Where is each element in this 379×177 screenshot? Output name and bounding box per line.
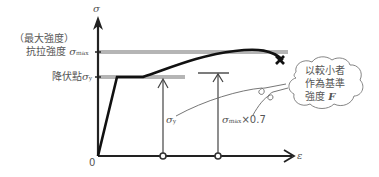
sigma-max-07-marker bbox=[215, 153, 221, 159]
y-axis-label: σ bbox=[93, 3, 100, 15]
callout-text: 以較小者 作為基準 強度 F bbox=[305, 64, 345, 103]
sigma-y-annotation: σy bbox=[166, 114, 176, 127]
callout-leader-2 bbox=[253, 88, 288, 115]
callout-line-2: 作為基準 bbox=[305, 77, 345, 90]
x-axis-label: ε bbox=[297, 150, 302, 162]
callout-line-3: 強度 F bbox=[305, 90, 345, 103]
callout-line-1: 以較小者 bbox=[305, 64, 345, 77]
sigma-y-marker bbox=[160, 153, 166, 159]
max-strength-label: （最大強度） bbox=[14, 33, 74, 45]
yield-point-label: 降伏點σy bbox=[52, 71, 92, 84]
stress-strain-curve bbox=[98, 50, 283, 156]
sigma-max-07-annotation: σmax×0.7 bbox=[222, 114, 266, 127]
origin-label: 0 bbox=[89, 157, 95, 169]
tensile-strength-label: 抗拉強度 σmax bbox=[26, 46, 89, 59]
